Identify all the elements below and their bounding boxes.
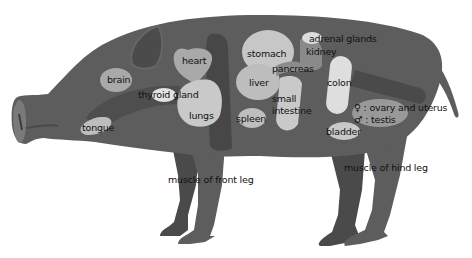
label-testis: ♂ : testis [354,114,396,125]
label-adrenal: adrenal glands [309,33,377,44]
label-heart: heart [182,55,206,66]
boar-anatomy-diagram: brain heart thyroid gland lungs tongue s… [0,0,472,258]
label-small-intestine-2: intestine [272,105,312,116]
label-ovary-uterus: ♀ : ovary and uterus [354,102,447,113]
label-hind-leg-muscle: muscle of hind leg [344,162,428,173]
label-spleen: spleen [236,113,266,124]
label-colon: colon [327,77,352,88]
label-front-leg-muscle: muscle of front leg [168,174,253,185]
label-small-intestine-1: small [272,93,296,104]
label-thyroid: thyroid gland [138,89,199,100]
label-tongue: tongue [82,122,114,133]
label-bladder: bladder [326,126,361,137]
boar-silhouette [0,0,472,258]
label-pancreas: pancreas [272,63,314,74]
label-kidney: kidney [306,46,336,57]
label-stomach: stomach [247,48,286,59]
label-liver: liver [249,77,269,88]
label-lungs: lungs [189,110,214,121]
label-brain: brain [107,74,130,85]
